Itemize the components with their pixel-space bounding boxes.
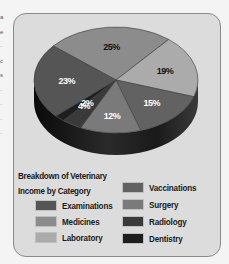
legend-item-vaccinations: Vaccinations [122, 181, 205, 193]
legend-swatch-vaccinations [122, 182, 144, 193]
legend-item-laboratory: Laboratory [35, 231, 110, 243]
slice-label-vaccinations: 15% [143, 98, 160, 108]
legend-swatch-examinations [35, 200, 57, 211]
legend-label: Radiology [149, 216, 187, 227]
legend-item-examinations: Examinations [35, 199, 121, 211]
legend-label: Examinations [62, 200, 112, 211]
legend-swatch-laboratory [35, 232, 57, 243]
legend-swatch-surgery [122, 199, 144, 210]
legend-item-radiology: Radiology [122, 215, 193, 227]
legend-title-line2: Income by Category [18, 183, 107, 198]
legend-label: Vaccinations [149, 182, 196, 193]
legend-item-dentistry: Dentistry [122, 232, 188, 244]
legend-label: Surgery [149, 199, 178, 210]
slice-label-medicines: 25% [103, 42, 120, 52]
legend-label: Dentistry [149, 233, 182, 244]
legend-title-line1: Breakdown of Veterinary [18, 168, 107, 183]
slice-label-dentistry: 2% [81, 98, 94, 108]
slice-label-examinations: 23% [59, 76, 76, 86]
legend-title: Breakdown of Veterinary Income by Catego… [18, 168, 107, 198]
legend-swatch-radiology [122, 216, 144, 227]
legend-label: Laboratory [62, 232, 102, 243]
legend-swatch-medicines [35, 216, 57, 227]
legend-label: Medicines [62, 216, 100, 227]
slice-label-laboratory: 19% [157, 66, 174, 76]
legend-swatch-dentistry [122, 233, 144, 244]
legend-item-surgery: Surgery [122, 198, 184, 210]
slice-label-surgery: 12% [104, 111, 121, 121]
legend-item-medicines: Medicines [35, 215, 106, 227]
